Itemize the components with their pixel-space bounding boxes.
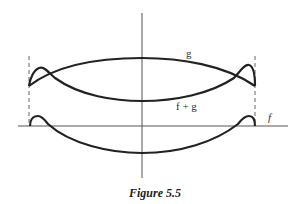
label-f-plus-g: f + g [176,100,197,112]
label-g: g [186,47,192,59]
figure-caption: Figure 5.5 [128,186,181,200]
figure-diagram: g f + g f Figure 5.5 [0,0,304,204]
label-f: f [268,111,273,123]
